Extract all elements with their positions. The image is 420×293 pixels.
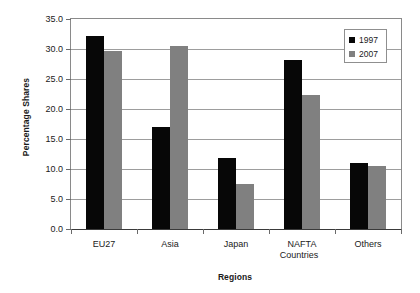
bar-2007-japan <box>236 184 254 229</box>
x-axis-tick <box>335 229 336 234</box>
y-axis-tick-label: 25.0 <box>29 74 63 84</box>
bar-1997-asia <box>152 127 170 229</box>
x-axis-category-label-line1: Asia <box>161 239 179 249</box>
legend-swatch-1997 <box>349 37 355 43</box>
bar-1997-nafta <box>284 60 302 229</box>
x-axis-category-label-line1: Others <box>354 239 381 249</box>
y-axis-tick <box>66 199 71 200</box>
y-axis-tick <box>66 79 71 80</box>
legend-item-1997: 1997 <box>349 33 386 47</box>
bar-2007-eu27 <box>104 51 122 229</box>
x-axis-category-label-line1: Japan <box>224 239 249 249</box>
x-axis-category-label: EU27 <box>93 239 116 250</box>
y-axis-tick <box>66 109 71 110</box>
x-axis-category-label: Others <box>354 239 381 250</box>
bar-2007-asia <box>170 46 188 229</box>
x-axis-tick <box>401 229 402 234</box>
legend-label-1997: 1997 <box>359 36 378 45</box>
y-axis-tick-label: 0.0 <box>29 224 63 234</box>
x-axis-title: Regions <box>70 272 400 282</box>
x-axis-tick <box>137 229 138 234</box>
x-axis-category-label: Asia <box>161 239 179 250</box>
x-axis-category-label-line1: NAFTA <box>288 239 317 249</box>
x-axis-category-label-line2: Countries <box>280 250 319 261</box>
legend-swatch-2007 <box>349 51 355 57</box>
x-axis-category-label-line1: EU27 <box>93 239 116 249</box>
y-axis-tick-label: 35.0 <box>29 14 63 24</box>
x-axis-tick <box>71 229 72 234</box>
y-axis-tick <box>66 49 71 50</box>
legend-label-2007: 2007 <box>359 50 378 59</box>
y-axis-tick-label: 20.0 <box>29 104 63 114</box>
bar-1997-japan <box>218 158 236 229</box>
legend-item-2007: 2007 <box>349 47 386 61</box>
y-axis-tick <box>66 19 71 20</box>
bar-2007-nafta <box>302 95 320 229</box>
y-axis-tick-label: 15.0 <box>29 134 63 144</box>
bar-1997-eu27 <box>86 36 104 229</box>
y-axis-tick-label: 10.0 <box>29 164 63 174</box>
bar-chart: Percentage Shares 0.05.010.015.020.025.0… <box>0 0 420 293</box>
y-axis-tick <box>66 169 71 170</box>
x-axis-tick <box>203 229 204 234</box>
x-axis-category-label: Japan <box>224 239 249 250</box>
x-axis-tick <box>269 229 270 234</box>
bar-1997-others <box>350 163 368 229</box>
x-axis-category-label: NAFTACountries <box>286 239 319 261</box>
y-axis-tick-label: 30.0 <box>29 44 63 54</box>
bar-2007-others <box>368 166 386 229</box>
y-axis-tick-label: 5.0 <box>29 194 63 204</box>
legend: 1997 2007 <box>344 29 387 63</box>
y-axis-tick <box>66 139 71 140</box>
